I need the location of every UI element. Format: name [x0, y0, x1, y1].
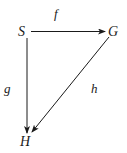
diagram: S G H f g h [0, 0, 127, 153]
edge-label-g: g [4, 81, 11, 96]
node-h: H [19, 134, 31, 149]
edge-label-f: f [54, 6, 60, 21]
node-g: G [108, 24, 118, 39]
edge-label-h: h [91, 81, 98, 96]
node-s: S [18, 24, 25, 39]
